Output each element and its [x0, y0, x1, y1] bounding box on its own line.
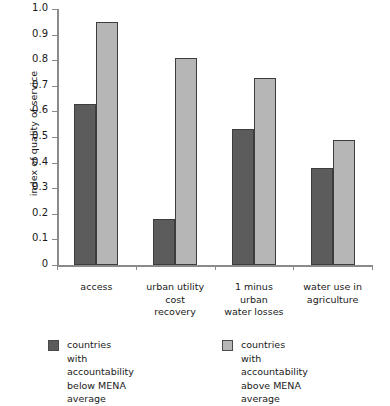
- y-axis-tick: 0.7: [52, 86, 57, 87]
- x-axis-tick: [136, 265, 137, 270]
- y-axis-tick-label: 0.1: [32, 232, 48, 243]
- legend-label-above-average: countries with accountability above MENA…: [241, 338, 308, 406]
- y-axis-tick-label: 0.7: [32, 79, 48, 90]
- x-axis-tick: [293, 265, 294, 270]
- y-axis-tick: 0.8: [52, 60, 57, 61]
- y-axis-tick: 0.4: [52, 163, 57, 164]
- chart-legend: countries with accountability below MENA…: [0, 334, 390, 371]
- y-axis-tick-label: 0.4: [32, 156, 48, 167]
- y-axis-tick-label: 0: [42, 258, 48, 269]
- x-axis-category-label: urban utility cost recovery: [132, 281, 218, 319]
- legend-label-below-average: countries with accountability below MENA…: [67, 338, 134, 406]
- bar: [311, 168, 333, 265]
- x-axis-category-label: 1 minus urban water losses: [211, 281, 297, 319]
- light-gray-swatch-icon: [222, 340, 233, 351]
- bar: [175, 58, 197, 265]
- x-axis-tick: [57, 265, 58, 270]
- y-axis-tick-label: 0.6: [32, 104, 48, 115]
- y-axis-tick-label: 0.3: [32, 181, 48, 192]
- bar: [232, 129, 254, 265]
- y-axis-tick: 1.0: [52, 9, 57, 10]
- y-axis-tick-label: 1.0: [32, 2, 48, 13]
- y-axis-tick-label: 0.5: [32, 130, 48, 141]
- x-axis-tick: [215, 265, 216, 270]
- y-axis-tick-label: 0.9: [32, 28, 48, 39]
- bar: [153, 219, 175, 265]
- y-axis-tick: 0.9: [52, 35, 57, 36]
- dark-gray-swatch-icon: [48, 340, 59, 351]
- bar: [254, 78, 276, 265]
- y-axis-tick: 0.1: [52, 239, 57, 240]
- x-axis-category-label: water use in agriculture: [290, 281, 376, 306]
- bar: [74, 104, 96, 265]
- y-axis-tick: 0.6: [52, 111, 57, 112]
- bar: [96, 22, 118, 265]
- y-axis-tick-label: 0.8: [32, 53, 48, 64]
- bar: [333, 140, 355, 265]
- y-axis-tick: 0.3: [52, 188, 57, 189]
- y-axis-tick-label: 0.2: [32, 207, 48, 218]
- x-axis-tick: [372, 265, 373, 270]
- y-axis-tick: 0.2: [52, 214, 57, 215]
- x-axis-category-label: access: [53, 281, 139, 294]
- plot-area: 1.00.90.80.70.60.50.40.30.20.10 accessur…: [57, 9, 372, 265]
- y-axis-line: [57, 9, 59, 265]
- y-axis-tick: 0.5: [52, 137, 57, 138]
